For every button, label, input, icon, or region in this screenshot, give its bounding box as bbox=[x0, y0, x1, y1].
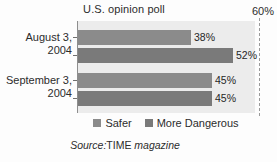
category-label-line1: August 3, bbox=[0, 31, 72, 44]
legend-swatch-icon bbox=[145, 119, 153, 127]
bar-value-safer-september: 45% bbox=[215, 74, 236, 86]
legend-label-safer: Safer bbox=[105, 117, 131, 129]
opinion-poll-chart: U.S. opinion poll 60% August 3, 2004 38%… bbox=[0, 0, 277, 162]
axis-tick bbox=[73, 98, 77, 99]
axis-max-label: 60% bbox=[252, 5, 274, 17]
category-label-august: August 3, 2004 bbox=[0, 31, 72, 56]
axis-tick bbox=[73, 80, 77, 81]
legend-item-safer[interactable]: Safer bbox=[93, 117, 131, 129]
category-label-september: September 3, 2004 bbox=[0, 74, 72, 99]
bar-value-safer-august: 38% bbox=[194, 31, 215, 43]
legend-swatch-icon bbox=[93, 119, 101, 127]
source-note: Source:TIME magazine bbox=[0, 139, 250, 151]
bar-safer-august[interactable] bbox=[78, 30, 191, 45]
bar-more-dangerous-august[interactable] bbox=[78, 48, 233, 63]
bar-value-more-dangerous-september: 45% bbox=[215, 92, 236, 104]
source-prefix: Source: bbox=[70, 139, 106, 151]
category-label-line1: September 3, bbox=[0, 74, 72, 87]
category-label-line2: 2004 bbox=[0, 44, 72, 57]
category-label-line2: 2004 bbox=[0, 87, 72, 100]
bar-safer-september[interactable] bbox=[78, 73, 212, 88]
source-publication: TIME bbox=[106, 139, 131, 151]
source-suffix: magazine bbox=[134, 139, 180, 151]
legend-label-more-dangerous: More Dangerous bbox=[157, 117, 239, 129]
axis-tick bbox=[73, 37, 77, 38]
max-gridline bbox=[259, 18, 260, 116]
chart-title: U.S. opinion poll bbox=[0, 3, 248, 15]
legend-item-more-dangerous[interactable]: More Dangerous bbox=[145, 117, 239, 129]
bar-more-dangerous-september[interactable] bbox=[78, 91, 212, 106]
bar-value-more-dangerous-august: 52% bbox=[236, 49, 257, 61]
axis-tick bbox=[73, 55, 77, 56]
chart-legend: Safer More Dangerous bbox=[77, 117, 255, 129]
